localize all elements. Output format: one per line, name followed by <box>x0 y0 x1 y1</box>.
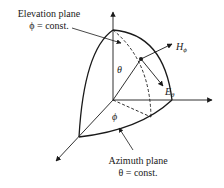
elevation-plane-equation: ϕ = const. <box>14 21 84 31</box>
h-phi-vector <box>141 44 172 59</box>
phi-angle-label: ϕ <box>112 112 117 122</box>
azimuth-plane-equation: θ = const. <box>103 168 173 178</box>
azimuth-leader-arrow <box>119 128 133 150</box>
x-axis <box>56 100 113 161</box>
elevation-plane-title: Elevation plane <box>14 9 84 19</box>
azimuth-plane-arc <box>79 100 172 137</box>
theta-angle-label: θ <box>117 65 122 75</box>
e-theta-vector <box>141 59 163 86</box>
dashed-radial-projection <box>113 100 151 117</box>
h-phi-label: Hϕ <box>176 37 187 53</box>
e-theta-label: Eθ <box>165 82 175 98</box>
azimuth-plane-title: Azimuth plane <box>103 156 173 166</box>
elevation-plane-label: Elevation plane ϕ = const. <box>14 9 84 31</box>
e-theta-subscript: θ <box>171 91 174 99</box>
azimuth-plane-label: Azimuth plane θ = const. <box>103 156 173 178</box>
elevation-plane-arc <box>79 30 113 137</box>
h-phi-subscript: ϕ <box>183 46 187 54</box>
